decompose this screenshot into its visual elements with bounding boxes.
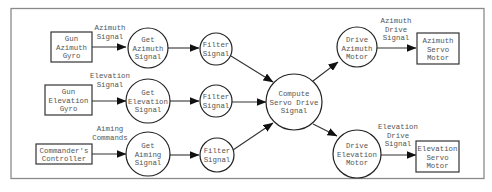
svg-text:Gun: Gun	[65, 35, 78, 43]
edge-filter1-to-compute	[231, 56, 273, 82]
svg-text:Azimuth: Azimuth	[341, 45, 372, 53]
node-get-azimuth-signal: Get Azimuth Signal	[128, 28, 168, 68]
node-get-elevation-signal: Get Elevation Signal	[126, 79, 170, 123]
svg-text:Controller: Controller	[42, 155, 86, 163]
edge-filter3-to-compute	[233, 123, 273, 150]
node-azimuth-servo-motor: Azimuth Servo Motor	[417, 33, 459, 64]
node-gun-azimuth-gyro: Gun Azimuth Gyro	[51, 32, 92, 62]
svg-text:Drive: Drive	[346, 142, 368, 150]
svg-text:Commander's: Commander's	[40, 147, 89, 155]
svg-text:Signal: Signal	[204, 156, 231, 164]
edge-compute-to-drive-azimuth	[313, 62, 338, 81]
edge-compute-to-drive-elevation	[313, 124, 337, 136]
svg-text:Motor: Motor	[346, 159, 368, 167]
label-elevation-drive-signal: Elevation Drive Signal	[378, 123, 418, 148]
node-compute-servo-drive-signal: Compute Servo Drive Signal	[266, 74, 322, 130]
svg-text:Signal: Signal	[281, 107, 308, 115]
svg-text:Motor: Motor	[426, 162, 448, 170]
svg-text:Azimuth: Azimuth	[132, 45, 163, 53]
label-azimuth-signal: Azimuth Signal	[94, 24, 125, 41]
svg-text:Azimuth: Azimuth	[380, 17, 411, 25]
svg-text:Drive: Drive	[346, 36, 368, 44]
label-elevation-signal: Elevation Signal	[90, 72, 130, 89]
svg-text:Elevation: Elevation	[337, 151, 377, 159]
node-filter-signal-3: Filter Signal	[200, 138, 234, 172]
svg-text:Signal: Signal	[385, 140, 412, 148]
svg-text:Get: Get	[141, 89, 154, 97]
svg-text:Get: Get	[141, 36, 154, 44]
svg-text:Elevation: Elevation	[418, 145, 458, 153]
svg-text:Filter: Filter	[204, 147, 231, 155]
svg-text:Gyro: Gyro	[63, 52, 81, 60]
svg-text:Commands: Commands	[92, 134, 127, 142]
svg-text:Aiming: Aiming	[135, 151, 162, 159]
svg-text:Signal: Signal	[203, 50, 230, 58]
gun-servo-dataflow-diagram: Gun Azimuth Gyro Gun Elevation Gyro Comm…	[0, 0, 492, 192]
svg-text:Signal: Signal	[135, 53, 162, 61]
svg-text:Get: Get	[141, 142, 154, 150]
svg-text:Drive: Drive	[385, 26, 407, 34]
svg-text:Aiming: Aiming	[97, 125, 124, 133]
label-aiming-commands: Aiming Commands	[92, 125, 127, 142]
svg-text:Motor: Motor	[427, 54, 449, 62]
svg-text:Compute: Compute	[278, 90, 309, 98]
node-elevation-servo-motor: Elevation Servo Motor	[416, 141, 459, 172]
svg-text:Servo: Servo	[426, 154, 448, 162]
svg-text:Signal: Signal	[135, 159, 162, 167]
svg-text:Signal: Signal	[97, 81, 124, 89]
svg-text:Gun: Gun	[62, 88, 75, 96]
svg-text:Signal: Signal	[135, 106, 162, 114]
svg-text:Elevation: Elevation	[49, 97, 89, 105]
svg-text:Azimuth: Azimuth	[94, 24, 125, 32]
node-filter-signal-1: Filter Signal	[200, 33, 232, 65]
svg-text:Filter: Filter	[203, 93, 230, 101]
svg-text:Drive: Drive	[387, 132, 409, 140]
svg-text:Servo Drive: Servo Drive	[270, 99, 319, 107]
svg-text:Elevation: Elevation	[378, 123, 418, 131]
svg-text:Motor: Motor	[346, 53, 368, 61]
node-filter-signal-2: Filter Signal	[200, 85, 232, 117]
svg-text:Gyro: Gyro	[60, 105, 78, 113]
svg-text:Azimuth: Azimuth	[422, 37, 453, 45]
svg-text:Servo: Servo	[427, 46, 449, 54]
svg-text:Signal: Signal	[383, 34, 410, 42]
svg-text:Elevation: Elevation	[90, 72, 130, 80]
node-gun-elevation-gyro: Gun Elevation Gyro	[45, 85, 92, 115]
label-azimuth-drive-signal: Azimuth Drive Signal	[380, 17, 411, 42]
node-drive-elevation-motor: Drive Elevation Motor	[333, 130, 381, 178]
svg-text:Signal: Signal	[97, 33, 124, 41]
node-commanders-controller: Commander's Controller	[36, 144, 92, 164]
svg-text:Azimuth: Azimuth	[56, 44, 87, 52]
svg-text:Signal: Signal	[203, 102, 230, 110]
node-get-aiming-signal: Get Aiming Signal	[126, 132, 170, 176]
node-drive-azimuth-motor: Drive Azimuth Motor	[337, 27, 377, 67]
svg-text:Filter: Filter	[203, 41, 230, 49]
svg-text:Elevation: Elevation	[128, 98, 168, 106]
